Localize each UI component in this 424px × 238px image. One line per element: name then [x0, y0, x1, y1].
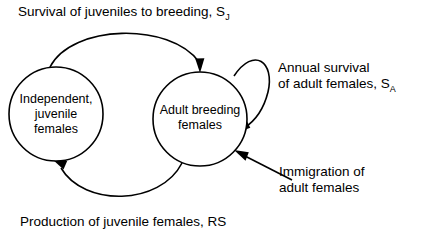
independent-juvenile-females-label: Independent, juvenile females — [8, 92, 104, 136]
self-loop-label: Annual survival of adult females, SA — [278, 60, 396, 94]
self-loop-label-line-2: of adult females, SA — [278, 76, 396, 94]
node-right-line-2: females — [152, 118, 248, 133]
node-left-line-1: Independent, — [8, 92, 104, 107]
arrow-adult-to-juvenile-path — [61, 163, 182, 196]
node-right-line-1: Adult breeding — [152, 103, 248, 118]
arrow-juvenile-to-adult — [50, 33, 204, 73]
arrow-juvenile-to-adult-head — [195, 58, 204, 73]
arrow-immigration-into-adult-head — [234, 150, 249, 161]
population-flow-diagram: Independent, juvenile females Adult bree… — [0, 0, 424, 238]
bottom-arc-label-text: Production of juvenile females, RS — [20, 214, 226, 229]
node-left-line-2: juvenile — [8, 107, 104, 122]
self-loop-label-subscript: A — [390, 84, 396, 94]
top-arc-label-subscript: J — [225, 12, 230, 22]
bottom-arc-label: Production of juvenile females, RS — [20, 214, 226, 230]
top-arc-label-text: Survival of juveniles to breeding, S — [18, 4, 225, 19]
self-loop-label-line-2-text: of adult females, S — [278, 76, 390, 91]
arrow-juvenile-to-adult-path — [50, 33, 199, 67]
immigration-label-line-1: Immigration of — [279, 164, 365, 180]
node-left-line-3: females — [8, 122, 104, 137]
immigration-label-line-2: adult females — [279, 180, 365, 196]
top-arc-label: Survival of juveniles to breeding, SJ — [18, 4, 230, 22]
self-loop-label-line-1: Annual survival — [278, 60, 396, 76]
immigration-label: Immigration of adult females — [279, 164, 365, 196]
adult-breeding-females-label: Adult breeding females — [152, 103, 248, 133]
arrow-adult-to-juvenile — [52, 159, 182, 196]
